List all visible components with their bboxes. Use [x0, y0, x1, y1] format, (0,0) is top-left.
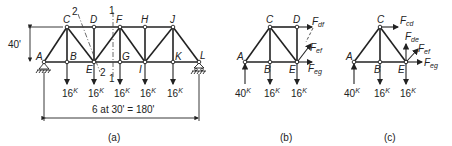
load-label-b: 16K [374, 87, 390, 99]
load-label-e: 16K [291, 87, 307, 99]
node-label-a: A [236, 51, 244, 62]
panel-b-free-body: A B C D E Fdf Fef Feg 40K 16K 16K (b) [235, 14, 325, 143]
node-label-b: B [374, 64, 381, 75]
svg-text:16K: 16K [88, 87, 104, 99]
svg-text:16K: 16K [140, 87, 156, 99]
truss-figure: A B C D E F G H I J K L 2 2 1 1 40' 16 [0, 0, 452, 146]
node-label-c: C [266, 14, 274, 25]
load-label-e: 16K [400, 87, 416, 99]
node-label-e: E [289, 64, 296, 75]
pin-support-icon [36, 63, 51, 73]
fbd-b-nodes [243, 25, 299, 64]
svg-text:16K: 16K [167, 87, 183, 99]
node-label-e: E [398, 64, 405, 75]
node-label-f: F [116, 14, 123, 25]
caption-b: (b) [280, 132, 292, 143]
force-label-fde: Fde [405, 31, 419, 43]
panel-a-truss: A B C D E F G H I J K L 2 2 1 1 40' 16 [8, 5, 206, 143]
height-dimension [28, 27, 63, 61]
node-label-e: E [86, 64, 93, 75]
node-label-i: I [139, 64, 142, 75]
resultant-dashed-line [306, 28, 313, 42]
section-label-1-bottom: 1 [109, 73, 115, 84]
panel-c-free-body: A B C E Fcd Fde Fef Feg 40K 16K 16K (c) [344, 14, 438, 143]
node-label-d: D [293, 14, 300, 25]
node-label-l: L [200, 50, 206, 61]
node-label-k: K [175, 51, 183, 62]
force-label-fef: Fef [310, 42, 323, 54]
height-label: 40' [8, 39, 21, 50]
node-label-b: B [264, 64, 271, 75]
force-label-fdf: Fdf [312, 16, 325, 28]
load-arrows [67, 63, 173, 84]
force-label-fef: Fef [418, 43, 431, 55]
force-label-feg: Feg [308, 63, 322, 76]
load-label-b: 16K [264, 87, 280, 99]
fbd-b-members [245, 27, 297, 62]
svg-text:16K: 16K [62, 87, 78, 99]
load-labels: 16K 16K 16K 16K 16K [62, 87, 183, 99]
fbd-c-members [354, 27, 406, 62]
node-label-h: H [141, 14, 149, 25]
node-label-a: A [35, 51, 43, 62]
node-label-c: C [377, 14, 385, 25]
node-label-j: J [169, 14, 176, 25]
section-label-2-top: 2 [72, 6, 78, 17]
node-label-c: C [63, 14, 71, 25]
reaction-label: 40K [235, 87, 251, 99]
svg-text:16K: 16K [114, 87, 130, 99]
node-label-g: G [122, 51, 130, 62]
span-label: 6 at 30' = 180' [92, 104, 155, 115]
force-label-fcd: Fcd [400, 15, 415, 27]
reaction-label: 40K [344, 87, 360, 99]
force-label-feg: Feg [424, 57, 438, 70]
caption-a: (a) [108, 132, 120, 143]
node-label-b: B [70, 51, 77, 62]
section-label-2-bottom: 2 [100, 67, 106, 78]
force-arrow-fef [407, 49, 418, 61]
node-label-a: A [345, 51, 353, 62]
caption-c: (c) [384, 132, 396, 143]
node-label-d: D [90, 14, 97, 25]
roller-support-icon [191, 63, 206, 74]
section-label-1-top: 1 [109, 5, 115, 16]
